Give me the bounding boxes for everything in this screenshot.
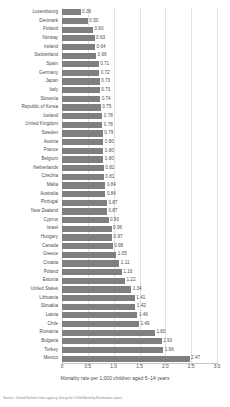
bar-row[interactable]: 0.81 bbox=[62, 174, 217, 180]
bar-row[interactable]: 0.80 bbox=[62, 139, 217, 145]
bar[interactable] bbox=[62, 278, 125, 284]
bar[interactable] bbox=[62, 338, 162, 344]
category-axis-labels: LuxembourgDenmarkFinlandNorwayIrelandSwi… bbox=[0, 8, 60, 363]
bar[interactable] bbox=[62, 18, 88, 24]
bar[interactable] bbox=[62, 304, 135, 310]
bar[interactable] bbox=[62, 113, 102, 119]
x-tick-label: 3.0 bbox=[214, 365, 221, 370]
bar-row[interactable]: 1.41 bbox=[62, 295, 217, 301]
bar[interactable] bbox=[62, 269, 122, 275]
bar-row[interactable]: 0.36 bbox=[62, 9, 217, 15]
bar-row[interactable]: 0.71 bbox=[62, 61, 217, 67]
bar-row[interactable]: 0.75 bbox=[62, 104, 217, 110]
bar-row[interactable]: 0.96 bbox=[62, 226, 217, 232]
bar[interactable] bbox=[62, 347, 163, 353]
bar[interactable] bbox=[62, 165, 104, 171]
bar-value-label: 0.96 bbox=[113, 226, 122, 231]
bar[interactable] bbox=[62, 96, 100, 102]
bar-row[interactable]: 1.16 bbox=[62, 269, 217, 275]
category-label: Poland bbox=[44, 270, 58, 275]
bar-row[interactable]: 1.93 bbox=[62, 338, 217, 344]
bar[interactable] bbox=[62, 260, 119, 266]
bar-row[interactable]: 0.87 bbox=[62, 208, 217, 214]
bar[interactable] bbox=[62, 61, 99, 67]
bar-row[interactable]: 0.74 bbox=[62, 96, 217, 102]
bar-row[interactable]: 0.78 bbox=[62, 122, 217, 128]
bar-row[interactable]: 0.73 bbox=[62, 78, 217, 84]
bar-value-label: 0.81 bbox=[105, 175, 114, 180]
bar-row[interactable]: 1.49 bbox=[62, 321, 217, 327]
bar[interactable] bbox=[62, 35, 95, 41]
category-label: Spain bbox=[46, 62, 58, 67]
bar[interactable] bbox=[62, 78, 100, 84]
bar-row[interactable]: 0.60 bbox=[62, 27, 217, 33]
bar[interactable] bbox=[62, 252, 116, 258]
bar-row[interactable]: 1.80 bbox=[62, 330, 217, 336]
bar[interactable] bbox=[62, 330, 155, 336]
gridline bbox=[217, 8, 218, 363]
bar[interactable] bbox=[62, 122, 102, 128]
bar[interactable] bbox=[62, 286, 131, 292]
chart-container: LuxembourgDenmarkFinlandNorwayIrelandSwi… bbox=[0, 0, 230, 407]
bar[interactable] bbox=[62, 148, 103, 154]
bar-row[interactable]: 1.11 bbox=[62, 260, 217, 266]
bar-row[interactable]: 0.73 bbox=[62, 87, 217, 93]
bar[interactable] bbox=[62, 53, 96, 59]
bar[interactable] bbox=[62, 217, 109, 223]
bar-row[interactable]: 1.46 bbox=[62, 312, 217, 318]
bar-row[interactable]: 1.05 bbox=[62, 252, 217, 258]
category-label: Italy bbox=[50, 88, 58, 93]
bar-row[interactable]: 0.84 bbox=[62, 182, 217, 188]
bar[interactable] bbox=[62, 182, 105, 188]
bar-value-label: 1.22 bbox=[127, 278, 136, 283]
bar-row[interactable]: 0.64 bbox=[62, 44, 217, 50]
bar[interactable] bbox=[62, 234, 112, 240]
bar[interactable] bbox=[62, 321, 139, 327]
category-label: Belgium bbox=[41, 157, 58, 162]
bar[interactable] bbox=[62, 174, 104, 180]
category-label: Luxembourg bbox=[32, 10, 58, 15]
bar-row[interactable]: 1.22 bbox=[62, 278, 217, 284]
bar[interactable] bbox=[62, 139, 103, 145]
bar-row[interactable]: 0.78 bbox=[62, 113, 217, 119]
bar[interactable] bbox=[62, 356, 190, 362]
bar-row[interactable]: 1.96 bbox=[62, 347, 217, 353]
bar-row[interactable]: 0.79 bbox=[62, 130, 217, 136]
bar-value-label: 0.78 bbox=[104, 123, 113, 128]
bar[interactable] bbox=[62, 27, 93, 33]
bar-row[interactable]: 0.87 bbox=[62, 200, 217, 206]
bar[interactable] bbox=[62, 208, 107, 214]
bar[interactable] bbox=[62, 87, 100, 93]
bar-row[interactable]: 0.90 bbox=[62, 217, 217, 223]
bar[interactable] bbox=[62, 226, 112, 232]
bar[interactable] bbox=[62, 200, 107, 206]
bar-row[interactable]: 2.47 bbox=[62, 356, 217, 362]
bar-row[interactable]: 0.80 bbox=[62, 148, 217, 154]
bar-row[interactable]: 0.84 bbox=[62, 191, 217, 197]
bar[interactable] bbox=[62, 312, 137, 318]
category-label: France bbox=[44, 148, 58, 153]
bar-row[interactable]: 0.72 bbox=[62, 70, 217, 76]
bar[interactable] bbox=[62, 191, 105, 197]
bar[interactable] bbox=[62, 9, 81, 15]
bar-row[interactable]: 1.34 bbox=[62, 286, 217, 292]
bar-row[interactable]: 0.98 bbox=[62, 243, 217, 249]
bar[interactable] bbox=[62, 156, 103, 162]
category-label: Slovakia bbox=[41, 304, 58, 309]
bar-row[interactable]: 0.63 bbox=[62, 35, 217, 41]
bar[interactable] bbox=[62, 104, 101, 110]
bar-row[interactable]: 1.42 bbox=[62, 304, 217, 310]
bar-row[interactable]: 0.97 bbox=[62, 234, 217, 240]
bar[interactable] bbox=[62, 295, 135, 301]
bar-row[interactable]: 0.80 bbox=[62, 156, 217, 162]
bar-value-label: 0.80 bbox=[105, 149, 114, 154]
bar-row[interactable]: 0.66 bbox=[62, 53, 217, 59]
bar[interactable] bbox=[62, 130, 103, 136]
bar-value-label: 0.87 bbox=[108, 209, 117, 214]
bar[interactable] bbox=[62, 44, 95, 50]
bar[interactable] bbox=[62, 243, 113, 249]
bar[interactable] bbox=[62, 70, 99, 76]
category-label: Australia bbox=[40, 192, 58, 197]
bar-row[interactable]: 0.81 bbox=[62, 165, 217, 171]
bar-row[interactable]: 0.50 bbox=[62, 18, 217, 24]
